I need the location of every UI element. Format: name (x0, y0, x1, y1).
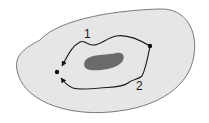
diagram-figure: 1 2 (0, 0, 209, 123)
end-point-dot (55, 70, 59, 74)
path-1-label: 1 (84, 28, 91, 40)
diagram-canvas (0, 0, 209, 123)
path-2-label: 2 (136, 80, 143, 92)
start-point-dot (148, 44, 152, 48)
